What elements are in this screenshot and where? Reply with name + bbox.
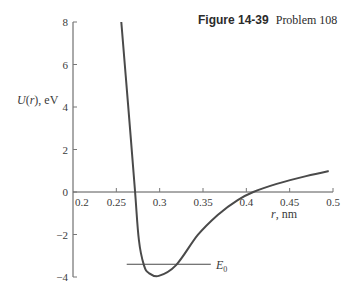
e0-label: E0 — [216, 258, 227, 274]
x-axis-label: r, nm — [271, 207, 297, 222]
axes: −4−2024680.20.250.30.350.40.450.5 — [56, 16, 340, 283]
potential-curve — [121, 22, 328, 276]
y-tick-label: −4 — [56, 271, 68, 283]
potential-energy-chart: −4−2024680.20.250.30.350.40.450.5 — [0, 0, 353, 294]
y-tick-label: 6 — [63, 59, 69, 71]
figure-number: Figure 14-39 — [198, 13, 269, 27]
problem-label: Problem 108 — [276, 13, 338, 27]
x-tick-label: 0.25 — [107, 196, 127, 208]
y-axis-label: U(r), eV — [17, 93, 58, 108]
y-tick-label: −2 — [56, 229, 68, 241]
y-tick-label: 4 — [63, 101, 69, 113]
x-tick-label: 0.2 — [75, 196, 89, 208]
y-tick-label: 2 — [63, 144, 69, 156]
x-tick-label: 0.35 — [193, 196, 213, 208]
x-tick-label: 0.5 — [326, 196, 340, 208]
figure-caption: Figure 14-39 Problem 108 — [198, 13, 337, 28]
x-tick-label: 0.3 — [153, 196, 167, 208]
y-tick-label: 8 — [63, 16, 69, 28]
y-tick-label: 0 — [63, 186, 69, 198]
